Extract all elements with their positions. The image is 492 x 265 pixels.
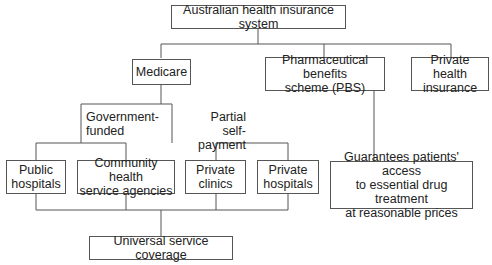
community-health-node: Community health service agencies <box>77 160 175 194</box>
pbs-detail-node: Guarantees patients' access to essential… <box>330 161 473 209</box>
root-node: Australian health insurance system <box>171 5 346 29</box>
medicare-node: Medicare <box>132 59 191 85</box>
universal-coverage-node: Universal service coverage <box>89 236 233 260</box>
private-insurance-line1: Private health <box>412 53 488 81</box>
partial-self-payment-label: Partial self-payment <box>186 110 246 152</box>
connector-lines <box>0 0 492 265</box>
pbs-label-line1: Pharmaceutical benefits <box>266 53 384 81</box>
private-insurance-line2: insurance <box>423 81 477 95</box>
private-insurance-node: Private health insurance <box>411 57 489 91</box>
medicare-label: Medicare <box>136 65 187 79</box>
private-clinics-node: Private clinics <box>185 160 246 194</box>
pbs-label-line2: scheme (PBS) <box>285 81 366 95</box>
root-label: Australian health insurance system <box>172 3 345 31</box>
universal-coverage-label: Universal service coverage <box>90 234 232 262</box>
private-hospitals-node: Private hospitals <box>257 160 319 194</box>
public-hospitals-node: Public hospitals <box>6 160 66 194</box>
government-funded-label: Government- funded <box>86 110 159 138</box>
pbs-node: Pharmaceutical benefits scheme (PBS) <box>265 57 385 91</box>
